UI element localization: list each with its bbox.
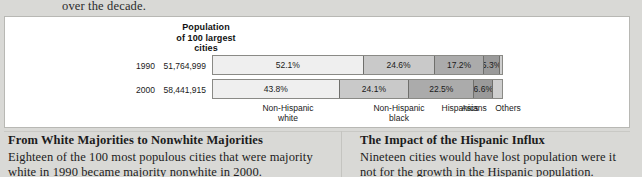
chart-row: 2000 58,441,915 43.8% 24.1% 22.5% 6.6% <box>5 79 629 100</box>
bar-segment-nonhispanic-black: 24.1% <box>340 80 410 98</box>
category-label-line-1: Others <box>478 103 538 113</box>
bar-segment-others <box>500 56 502 74</box>
row-year-label: 1990 <box>125 61 155 71</box>
chart-row: 1990 51,764,999 52.1% 24.6% 17.2% 5.3% <box>5 55 629 76</box>
row-population-label: 58,441,915 <box>160 85 206 95</box>
footer-left-heading: From White Majorities to Nonwhite Majori… <box>8 133 333 148</box>
category-label-others: Others <box>478 103 538 113</box>
category-labels: Non-Hispanic white Non-Hispanic black Hi… <box>5 103 629 125</box>
bar-segment-hispanics: 17.2% <box>435 56 485 74</box>
bar-segment-nonhispanic-black: 24.6% <box>364 56 435 74</box>
bar-segment-asians: 6.6% <box>474 80 493 98</box>
footer-left-body: Eighteen of the 100 most populous cities… <box>8 150 333 177</box>
chart-title-line-2: of 100 largest <box>140 33 272 44</box>
chart-title-line-1: Population <box>140 22 272 33</box>
lede-text: over the decade. <box>62 0 146 14</box>
stacked-bar: 52.1% 24.6% 17.2% 5.3% <box>212 55 503 75</box>
bar-segment-nonhispanic-white: 43.8% <box>213 80 340 98</box>
chart-rows: 1990 51,764,999 52.1% 24.6% 17.2% 5.3% 2… <box>5 55 629 103</box>
category-label-line-2: black <box>319 113 479 123</box>
footer: From White Majorities to Nonwhite Majori… <box>0 133 642 177</box>
footer-right-body: Nineteen cities would have lost populati… <box>360 150 635 177</box>
chart-title: Population of 100 largest cities <box>140 22 272 54</box>
footer-column-right: The Impact of the Hispanic Influx Ninete… <box>360 133 635 177</box>
footer-right-heading: The Impact of the Hispanic Influx <box>360 133 635 148</box>
chart-panel: Population of 100 largest cities 1990 51… <box>4 16 630 128</box>
stacked-bar: 43.8% 24.1% 22.5% 6.6% <box>212 79 503 99</box>
row-year-label: 2000 <box>125 85 155 95</box>
bar-segment-asians: 5.3% <box>484 56 499 74</box>
bar-segment-others <box>493 80 502 98</box>
footer-top-rule <box>4 131 630 132</box>
bar-segment-hispanics: 22.5% <box>409 80 474 98</box>
footer-column-left: From White Majorities to Nonwhite Majori… <box>8 133 333 177</box>
chart-title-line-3: cities <box>140 43 272 54</box>
row-population-label: 51,764,999 <box>160 61 206 71</box>
bar-segment-nonhispanic-white: 52.1% <box>213 56 364 74</box>
